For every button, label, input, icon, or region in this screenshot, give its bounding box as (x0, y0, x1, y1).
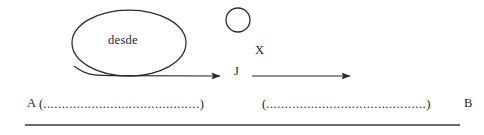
diagram-drawing (0, 0, 484, 135)
small-circle (226, 8, 250, 32)
figure-canvas: desde X J A B (.........................… (0, 0, 484, 135)
ellipse-label: desde (108, 34, 138, 47)
x-label: X (255, 44, 264, 57)
dotted-span-left: (.......................................… (39, 97, 231, 112)
a-label: A (27, 97, 36, 110)
left-dots: ........................................… (43, 97, 199, 111)
b-label: B (464, 97, 472, 110)
j-label: J (234, 65, 239, 78)
right-close-paren: ) (426, 97, 430, 111)
right-dots: ........................................… (266, 97, 426, 111)
left-close-paren: ) (200, 97, 204, 111)
dotted-span-right: (.......................................… (262, 97, 462, 112)
